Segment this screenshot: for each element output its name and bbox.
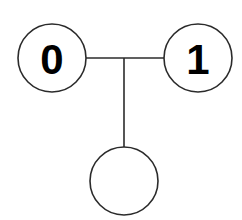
graph-diagram-canvas: 0 1 <box>0 0 242 220</box>
graph-svg: 0 1 <box>0 0 242 220</box>
edge-group <box>86 58 165 147</box>
node-0[interactable]: 0 <box>18 24 86 92</box>
node-1[interactable]: 1 <box>164 24 232 92</box>
node-1-label: 1 <box>186 36 209 83</box>
node-0-label: 0 <box>40 36 63 83</box>
node-unlabeled-circle[interactable] <box>90 147 158 215</box>
node-unlabeled[interactable] <box>90 147 158 215</box>
